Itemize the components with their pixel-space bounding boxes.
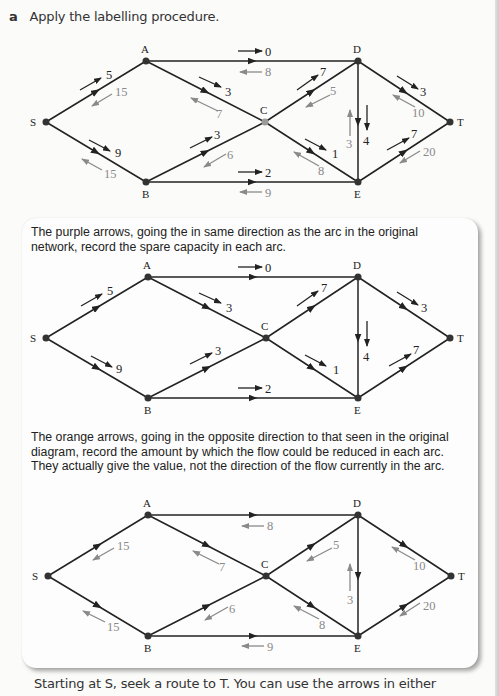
spare-CD: 7 — [320, 65, 326, 79]
node-E: E — [354, 188, 361, 200]
spare-AD: 0 — [265, 261, 271, 275]
node-C: C — [260, 104, 267, 116]
node-A: A — [143, 259, 151, 271]
reduce-AD: 8 — [265, 65, 271, 79]
node-T: T — [457, 332, 464, 344]
spare-CD: 7 — [321, 281, 327, 295]
spare-BE: 2 — [265, 166, 271, 180]
spare-ET: 7 — [411, 127, 417, 141]
spare-AC: 3 — [225, 85, 231, 99]
reduce-DT: 10 — [413, 559, 426, 573]
spare-BC: 3 — [215, 344, 221, 358]
reduce-DE: 3 — [347, 593, 353, 607]
spare-DT: 3 — [420, 85, 426, 99]
spare-SA: 5 — [107, 284, 113, 298]
node-T: T — [458, 570, 465, 582]
spare-DE: 4 — [363, 134, 370, 148]
reduce-BC: 6 — [229, 602, 235, 616]
node-D: D — [353, 497, 361, 509]
reduce-BE: 9 — [265, 186, 271, 200]
spare-AC: 3 — [226, 301, 232, 315]
spare-CE: 1 — [332, 147, 338, 161]
reduce-ET: 20 — [423, 599, 436, 613]
reduce-SB: 15 — [107, 620, 120, 634]
node-A: A — [141, 43, 149, 55]
spare-ET: 7 — [413, 343, 419, 357]
node-S: S — [32, 570, 38, 582]
network-diagram-combined: S A B C D E T 5 9 0 3 3 2 7 1 4 3 7 — [0, 0, 499, 200]
spare-DT: 3 — [421, 301, 427, 315]
node-C: C — [261, 320, 268, 332]
node-T: T — [457, 116, 464, 128]
spare-SA: 5 — [106, 68, 112, 82]
spare-SB: 9 — [116, 362, 122, 376]
reduce-DE: 3 — [346, 137, 352, 151]
network-diagram-reduce-flow: S A B C D E T 15 15 8 7 6 9 5 8 3 10 20 — [0, 454, 499, 654]
node-S: S — [30, 116, 36, 128]
reduce-AD: 8 — [267, 519, 273, 533]
node-B: B — [144, 642, 151, 654]
reduce-CE: 8 — [319, 618, 325, 632]
reduce-SB: 15 — [104, 167, 117, 181]
reduce-BC: 6 — [227, 148, 233, 162]
node-D: D — [353, 259, 361, 271]
network-diagram-spare-capacity: S A B C D E T 5 9 0 3 3 2 7 1 4 3 7 — [0, 216, 499, 416]
reduce-SA: 15 — [117, 539, 130, 553]
node-C: C — [261, 558, 268, 570]
node-S: S — [30, 332, 36, 344]
spare-SB: 9 — [115, 146, 121, 160]
reduce-CD: 5 — [330, 84, 336, 98]
node-B: B — [144, 404, 151, 416]
reduce-DT: 10 — [412, 106, 425, 120]
spare-AD: 0 — [265, 45, 271, 59]
node-E: E — [354, 642, 361, 654]
spare-BC: 3 — [214, 128, 220, 142]
reduce-CD: 5 — [333, 538, 339, 552]
node-A: A — [143, 497, 151, 509]
spare-BE: 2 — [265, 382, 271, 396]
footer-text: Starting at S, seek a route to T. You ca… — [34, 676, 436, 691]
reduce-BE: 9 — [267, 640, 273, 654]
reduce-AC: 7 — [216, 107, 222, 121]
node-B: B — [142, 188, 149, 200]
spare-DE: 4 — [363, 350, 370, 364]
node-E: E — [354, 404, 361, 416]
reduce-ET: 20 — [423, 145, 436, 159]
node-D: D — [353, 43, 361, 55]
spare-CE: 1 — [333, 363, 339, 377]
reduce-AC: 7 — [219, 560, 225, 574]
reduce-SA: 15 — [115, 85, 128, 99]
reduce-CE: 8 — [318, 164, 324, 178]
